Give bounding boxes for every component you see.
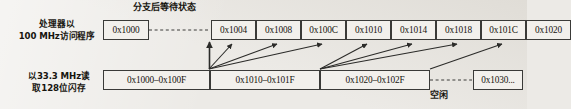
processor-cell-7: 0x1020 xyxy=(526,20,571,40)
flash-to-processor-arrow-3a xyxy=(430,44,502,69)
flash-to-processor-arrow-2b xyxy=(320,44,412,69)
flash-to-processor-arrow-2c xyxy=(320,44,457,69)
